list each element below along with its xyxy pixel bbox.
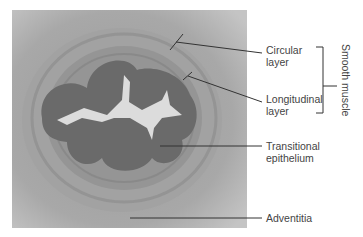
label-line: Circular xyxy=(266,44,302,56)
label-adventitia: Adventitia xyxy=(266,212,312,224)
label-line: Longitudinal xyxy=(266,93,323,105)
label-transitional-epithelium: Transitional epithelium xyxy=(266,140,320,164)
label-circular-layer: Circular layer xyxy=(266,44,302,68)
circular-leader xyxy=(176,42,262,53)
label-line: layer xyxy=(266,56,302,68)
label-line: epithelium xyxy=(266,152,320,164)
label-longitudinal-layer: Longitudinal layer xyxy=(266,93,323,117)
label-line: Transitional xyxy=(266,140,320,152)
longitudinal-tick xyxy=(183,72,192,80)
leader-lines xyxy=(0,0,363,237)
label-smooth-muscle: Smooth muscle xyxy=(336,44,352,120)
label-line: layer xyxy=(266,105,323,117)
longitudinal-leader xyxy=(188,76,262,102)
